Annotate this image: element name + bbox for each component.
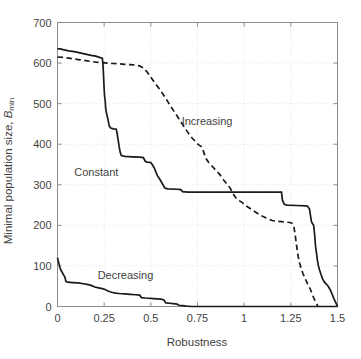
series-annotation-decreasing: Decreasing <box>98 269 154 281</box>
x-tick-label: 0.25 <box>93 312 114 324</box>
y-axis-title-symbol: B <box>2 111 14 119</box>
series-annotation-constant: Constant <box>74 166 118 178</box>
y-axis-title-text: Minimal population size, <box>2 118 14 244</box>
y-axis-title-subscript: min <box>7 98 16 111</box>
x-tick-label: 0 <box>54 312 60 324</box>
plot-canvas <box>0 0 361 359</box>
series-line-increasing <box>58 57 318 307</box>
chart-figure: 0100200300400500600700 00.250.50.7511.25… <box>0 0 361 359</box>
x-tick-label: 0.75 <box>187 312 208 324</box>
gridlines <box>58 23 338 307</box>
y-axis-title: Minimal population size, Bmin <box>2 98 16 244</box>
x-tick-label: 1.5 <box>330 312 345 324</box>
y-tick-label: 600 <box>0 57 52 69</box>
series-annotation-increasing: Increasing <box>182 115 233 127</box>
x-tick-label: 1.25 <box>280 312 301 324</box>
x-tick-label: 0.5 <box>143 312 158 324</box>
y-tick-label: 0 <box>0 301 52 313</box>
y-tick-label: 100 <box>0 260 52 272</box>
y-tick-label: 700 <box>0 17 52 29</box>
x-axis-title: Robustness <box>167 336 228 348</box>
x-tick-label: 1 <box>241 312 247 324</box>
